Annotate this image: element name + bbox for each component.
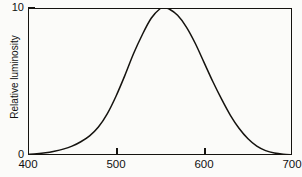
x-tick-mark-600: [204, 148, 206, 154]
y-axis-title: Relative luminosity: [10, 17, 20, 137]
x-tick-label-700: 700: [272, 158, 302, 170]
luminosity-curve-path: [28, 8, 292, 155]
x-tick-mark-500: [116, 148, 118, 154]
luminosity-curve-svg: [28, 8, 292, 155]
x-tick-label-500: 500: [96, 158, 136, 170]
x-tick-label-600: 600: [184, 158, 224, 170]
figure-canvas: 10 0 Relative luminosity 400 500 600 700: [0, 0, 302, 177]
y-tick-label-10: 10: [8, 2, 24, 13]
y-tick-mark-10: [28, 7, 35, 9]
x-tick-label-400: 400: [8, 158, 48, 170]
